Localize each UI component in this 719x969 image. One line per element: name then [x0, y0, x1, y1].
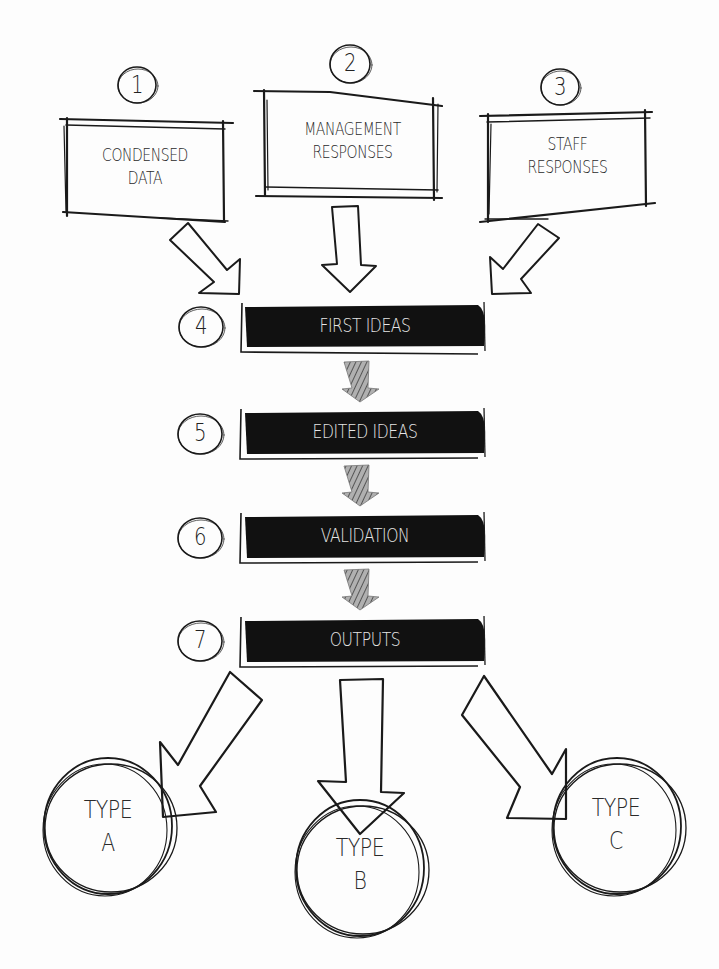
step-number-4: 4 [185, 310, 218, 342]
arrow-7-to-type-a [160, 672, 262, 817]
stage-label-validation: VALIDATION [267, 523, 464, 549]
input-label-line2: RESPONSES [504, 156, 631, 179]
output-label-line2: A [67, 827, 149, 860]
step-number-6: 6 [184, 521, 217, 553]
output-label-line1: TYPE [67, 794, 149, 827]
arrow-7-to-type-c [462, 676, 566, 819]
output-label-line1: TYPE [575, 792, 657, 825]
input-label-line2: DATA [84, 167, 207, 190]
output-label-type-b: TYPE B [310, 832, 410, 897]
step-number-1: 1 [121, 69, 154, 101]
step-number-7: 7 [184, 624, 217, 656]
step-number-2: 2 [334, 47, 367, 79]
hatched-arrow-6-to-7 [342, 569, 379, 610]
stage-label-edited-ideas: EDITED IDEAS [267, 419, 464, 445]
step-number-3: 3 [544, 71, 577, 103]
output-label-line2: C [575, 825, 657, 858]
arrow-3-to-4 [490, 224, 559, 294]
stage-label-outputs: OUTPUTS [267, 627, 464, 653]
output-label-type-a: TYPE A [58, 794, 158, 859]
input-label-condensed-data: CONDENSED DATA [70, 144, 220, 190]
input-label-line2: RESPONSES [285, 141, 420, 164]
input-label-management-responses: MANAGEMENT RESPONSES [270, 118, 435, 164]
stage-label-first-ideas: FIRST IDEAS [267, 313, 464, 339]
arrow-2-to-4 [322, 206, 376, 292]
input-label-line1: MANAGEMENT [285, 118, 420, 141]
input-label-line1: CONDENSED [84, 144, 207, 167]
input-label-line1: STAFF [504, 133, 631, 156]
output-label-line1: TYPE [319, 832, 401, 865]
step-number-5: 5 [184, 417, 217, 449]
output-label-type-c: TYPE C [566, 792, 666, 857]
hatched-arrow-5-to-6 [342, 465, 379, 506]
arrow-1-to-4 [170, 223, 240, 294]
arrow-7-to-type-b [318, 679, 404, 834]
hatched-arrow-4-to-5 [342, 361, 379, 402]
output-label-line2: B [319, 865, 401, 898]
input-label-staff-responses: STAFF RESPONSES [490, 133, 645, 179]
